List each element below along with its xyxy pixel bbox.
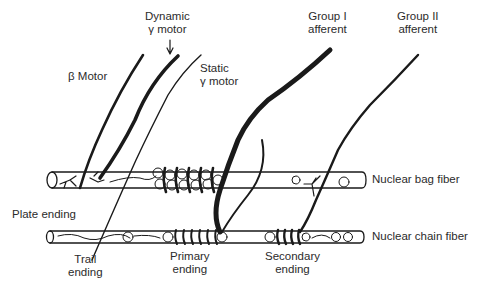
nuclear-chain-label: Nuclear chain fiber	[372, 230, 468, 243]
dynamic-arrow	[167, 40, 173, 54]
group2-afferent-label: Group II afferent	[397, 10, 439, 36]
plate-ending-label: Plate ending	[12, 208, 76, 221]
dynamic-gamma-label: Dynamic γ motor	[145, 10, 190, 36]
static-gamma-label: Static γ motor	[200, 62, 238, 88]
primary-ending-label: Primary ending	[170, 250, 210, 276]
muscle-spindle-diagram: Dynamic γ motor β Motor Static γ motor G…	[0, 0, 487, 288]
nuclear-bag-label: Nuclear bag fiber	[372, 173, 460, 186]
secondary-ending-label: Secondary ending	[265, 250, 320, 276]
diagram-drawing	[0, 0, 487, 288]
group2-afferent-nerve	[300, 55, 418, 232]
group1-afferent-label: Group I afferent	[308, 10, 347, 36]
beta-motor-label: β Motor	[68, 70, 107, 83]
nuclear-chain-fiber	[47, 230, 365, 244]
dynamic-gamma-nerve	[100, 56, 178, 178]
nuclear-bag-fiber	[47, 168, 366, 196]
trail-ending-label: Trail ending	[68, 253, 103, 279]
